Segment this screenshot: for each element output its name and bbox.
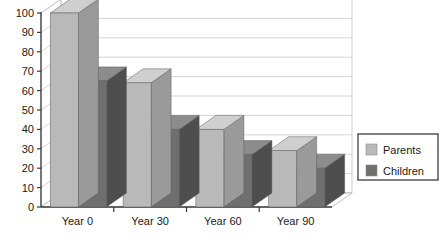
legend-swatch-1: [366, 165, 377, 176]
bar-parents-1: [123, 69, 171, 207]
bar-parents-0-side: [78, 0, 98, 207]
bar-parents-1-side: [151, 69, 171, 207]
bar-parents-3: [269, 137, 317, 207]
x-axis: Year 0Year 30Year 60Year 90: [62, 207, 315, 227]
legend-swatch-0: [366, 144, 377, 155]
y-tick-label: 80: [22, 46, 34, 58]
legend-label-0: Parents: [383, 144, 421, 156]
bar-children-0-side: [106, 67, 126, 207]
bar-parents-2-front: [196, 129, 224, 207]
bar-parents-3-front: [269, 151, 297, 207]
bar-chart-3d: 0102030405060708090100Year 0Year 30Year …: [0, 0, 443, 240]
bar-parents-2-side: [224, 115, 244, 207]
x-tick-label: Year 30: [131, 215, 169, 227]
y-tick-label: 50: [22, 104, 34, 116]
bar-parents-0-front: [50, 13, 78, 207]
x-tick-label: Year 0: [62, 215, 93, 227]
y-tick-label: 40: [22, 123, 34, 135]
y-tick-label: 10: [22, 182, 34, 194]
y-tick-label: 20: [22, 162, 34, 174]
legend-label-1: Children: [383, 165, 424, 177]
y-axis: 0102030405060708090100: [16, 7, 41, 213]
chart-canvas: 0102030405060708090100Year 0Year 30Year …: [0, 0, 443, 240]
x-tick-label: Year 60: [204, 215, 242, 227]
y-tick-label: 0: [28, 201, 34, 213]
x-tick-label: Year 90: [277, 215, 315, 227]
y-tick-label: 100: [16, 7, 34, 19]
bar-parents-0: [50, 0, 98, 207]
y-tick-label: 60: [22, 85, 34, 97]
bar-children-1-side: [179, 115, 199, 207]
y-tick-label: 90: [22, 26, 34, 38]
bar-parents-1-front: [123, 83, 151, 207]
y-tick-label: 30: [22, 143, 34, 155]
y-tick-label: 70: [22, 65, 34, 77]
legend: ParentsChildren: [358, 134, 438, 180]
bar-parents-2: [196, 115, 244, 207]
